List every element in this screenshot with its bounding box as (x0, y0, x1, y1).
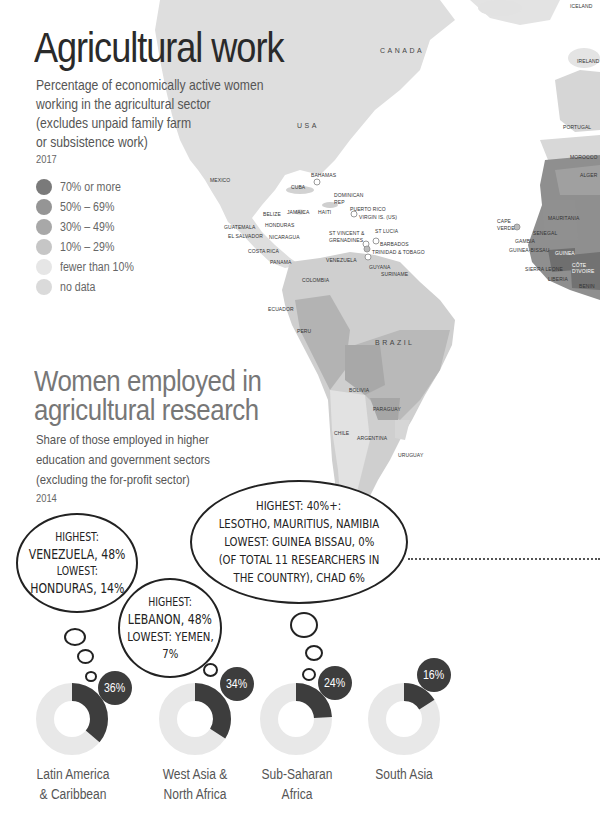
bubble-puff (77, 649, 94, 664)
legend-item: 50% – 69% (36, 197, 147, 217)
pct-label: 24% (324, 676, 345, 690)
label-uruguay: URUGUAY (398, 452, 423, 458)
thought-bubble-latin-america: HIGHEST: VENEZUELA, 48% LOWEST: HONDURAS… (16, 513, 138, 613)
region-label: South Asia (364, 764, 445, 784)
bubble-line: (OF TOTAL 11 RESEARCHERS IN (219, 551, 380, 569)
region-label-line: Africa (257, 784, 338, 804)
label-mauritania: MAURITANIA (548, 215, 579, 221)
region-label: West Asia &North Africa (155, 764, 236, 804)
legend-label: fewer than 10% (60, 260, 134, 274)
research-title-line: agricultural research (34, 395, 261, 424)
research-title: Women employed in agricultural research (34, 366, 261, 424)
label-nicaragua: NICARAGUA (269, 234, 300, 240)
donut-west-asia (159, 683, 231, 759)
label-argentina: ARGENTINA (357, 435, 387, 441)
pct-badge: 36% (98, 671, 132, 705)
map-subtitle-line: working in the agricultural sector (36, 95, 263, 114)
region-label-line: & Caribbean (33, 784, 114, 804)
label-bolivia: BOLIVIA (349, 387, 369, 393)
bubble-line: 7% (162, 645, 178, 662)
label-senegal: SENEGAL (533, 230, 557, 236)
label-ireland: IRELAND (577, 58, 599, 64)
bubble-line: HONDURAS, 14% (30, 579, 124, 597)
bubble-puff (203, 663, 218, 677)
legend-label: 30% – 49% (60, 220, 114, 234)
label-st-vincent: ST VINCENT & GRENADINES (329, 230, 365, 244)
label-guinea-bissau: GUINEA-BISSAU (509, 247, 549, 253)
region-label: Latin America& Caribbean (33, 764, 114, 804)
map-legend: 70% or more 50% – 69% 30% – 49% 10% – 29… (36, 177, 147, 297)
bubble-line: HIGHEST: (55, 529, 99, 545)
region-label: Sub-SaharanAfrica (257, 764, 338, 804)
donut-sub-saharan (260, 683, 332, 759)
label-cape-verde: CAPE VERDE (497, 218, 513, 232)
map-year: 2017 (36, 153, 57, 165)
bubble-line: HIGHEST: (148, 594, 192, 610)
legend-item: 70% or more (36, 177, 147, 197)
legend-swatch (36, 239, 52, 255)
thought-bubble-sub-saharan: HIGHEST: 40%+: LESOTHO, MAURITIUS, NAMIB… (190, 480, 408, 604)
region-label-line: Sub-Saharan (257, 764, 338, 784)
donut-ring (36, 683, 108, 755)
research-title-line: Women employed in (34, 366, 261, 395)
label-jamaica: JAMAICA (287, 209, 309, 215)
research-year: 2014 (36, 492, 57, 504)
label-portugal: PORTUGAL (563, 124, 591, 130)
legend-item: fewer than 10% (36, 257, 147, 277)
label-liberia: LIBERIA (548, 276, 568, 282)
label-el-salvador: EL SALVADOR (228, 233, 263, 239)
label-brazil: BRAZIL (375, 339, 415, 346)
label-suriname: SURINAME (381, 271, 408, 277)
label-dominican-rep: DOMINICAN REP (334, 192, 364, 206)
label-chile: CHILE (334, 430, 349, 436)
bubble-puff (302, 668, 316, 681)
region-label-line: Latin America (33, 764, 114, 784)
label-honduras: HONDURAS (265, 222, 294, 228)
legend-label: 10% – 29% (60, 240, 114, 254)
label-colombia: COLOMBIA (302, 277, 329, 283)
bubble-line: LOWEST: YEMEN, (127, 628, 213, 645)
bubble-puff (64, 628, 86, 646)
legend-label: 50% – 69% (60, 200, 114, 214)
label-costa-rica: COSTA RICA (248, 248, 279, 254)
bubble-puff (290, 612, 318, 638)
label-st-lucia: ST LUCIA (375, 228, 398, 234)
label-paraguay: PARAGUAY (373, 406, 401, 412)
legend-swatch (36, 199, 52, 215)
label-cote-divoire: CÔTE D'IVOIRE (572, 262, 594, 274)
legend-label: 70% or more (60, 180, 121, 194)
pct-label: 34% (226, 677, 247, 691)
bubble-line: LOWEST: (56, 563, 97, 579)
pct-badge: 24% (318, 666, 352, 700)
bubble-line: HIGHEST: 40%+: (256, 497, 341, 515)
label-virgin-is: VIRGIN IS. (US) (359, 214, 397, 220)
donut-ring (368, 683, 440, 755)
label-alger: ALGER (580, 172, 597, 178)
pct-label: 16% (423, 668, 444, 682)
label-usa: USA (297, 122, 319, 129)
legend-swatch (36, 259, 52, 275)
donut-latin-america (36, 683, 108, 759)
region-label-line: West Asia & (155, 764, 236, 784)
legend-label: no data (60, 280, 95, 294)
bubble-line: LOWEST: GUINEA BISSAU, 0% (224, 533, 374, 551)
legend-item: 30% – 49% (36, 217, 147, 237)
map-title: Agricultural work (34, 24, 283, 72)
label-morocco: MOROCCO (570, 154, 597, 160)
label-canada: CANADA (380, 47, 424, 54)
label-belize: BELIZE (263, 211, 281, 217)
legend-item: 10% – 29% (36, 237, 147, 257)
bubble-line: LEBANON, 48% (128, 610, 212, 628)
map-subtitle: Percentage of economically active women … (36, 76, 263, 152)
map-subtitle-line: (excludes unpaid family farm (36, 114, 263, 133)
label-venezuela: VENEZUELA (326, 257, 357, 263)
legend-item: no data (36, 277, 147, 297)
label-bahamas: BAHAMAS (311, 172, 336, 178)
label-panama: PANAMA (270, 259, 291, 265)
pct-badge: 34% (220, 667, 254, 701)
label-barbados: BARBADOS (380, 241, 409, 247)
label-guyana: GUYANA (369, 264, 390, 270)
label-guatemala: GUATEMALA (224, 224, 255, 230)
bubble-line: THE COUNTRY), CHAD 6% (233, 569, 364, 587)
legend-swatch (36, 179, 52, 195)
